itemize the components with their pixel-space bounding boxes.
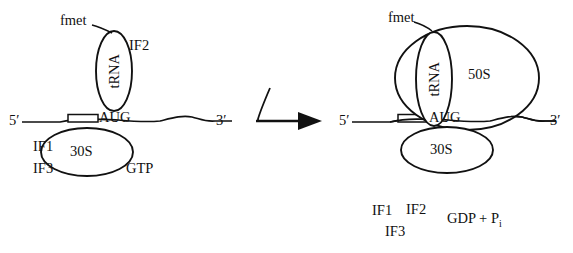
fmet-label-right: fmet xyxy=(388,10,415,25)
five-prime-label-right: 5′ xyxy=(339,113,349,128)
30s-label-left: 30S xyxy=(70,144,93,159)
trna-label-right: tRNA xyxy=(427,57,442,101)
three-prime-label-right: 3′ xyxy=(550,113,560,128)
five-prime-label-left: 5′ xyxy=(9,113,19,128)
aug-label-left: AUG xyxy=(99,110,130,125)
30s-label-right: 30S xyxy=(430,142,453,157)
if1-label-left: IF1 xyxy=(33,139,53,154)
shine-dalgarno-box-left xyxy=(68,115,98,123)
fmet-label-left: fmet xyxy=(60,13,87,28)
three-prime-label-left: 3′ xyxy=(216,113,226,128)
if2-label-released: IF2 xyxy=(406,202,426,217)
if3-label-left: IF3 xyxy=(33,161,53,176)
translation-initiation-diagram: fmet tRNA IF2 5′ AUG 3′ IF1 IF3 30S GTP … xyxy=(0,0,573,253)
gdp-subscript-i: i xyxy=(499,218,502,229)
gdp-label-text: GDP + P xyxy=(447,210,499,226)
if3-label-released: IF3 xyxy=(385,224,405,239)
if2-label-left: IF2 xyxy=(129,38,149,53)
trna-label-left: tRNA xyxy=(107,49,122,93)
aug-label-right: AUG xyxy=(429,110,460,125)
fmet-connector-right xyxy=(414,22,432,31)
gdp-pi-label-released: GDP + Pi xyxy=(447,211,502,229)
fmet-connector-left xyxy=(92,25,112,33)
arrow-head xyxy=(298,112,322,130)
50s-label-right: 50S xyxy=(468,67,491,82)
if1-label-released: IF1 xyxy=(372,203,392,218)
arrow-curved-tail xyxy=(258,88,270,121)
gtp-label-left: GTP xyxy=(126,161,153,176)
